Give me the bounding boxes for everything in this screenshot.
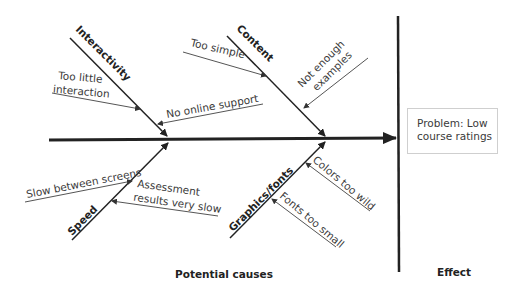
svg-text:Not enough examples: Not enough examples [295,35,358,98]
bone-speed: Speed Slow between screens Assessment re… [25,143,224,240]
bone-content: Content Too simple Not enough examples [183,22,368,136]
cause-too-simple: Too simple [189,36,247,60]
cause-fonts-too-small: Fonts too small [278,189,347,250]
potential-causes-label: Potential causes [175,268,273,280]
svg-text:Assessment results very: Assessment results very slow [133,177,225,215]
problem-line-1: Problem: Low [417,117,497,130]
effect-divider [398,16,399,272]
cause-too-little: Too little [57,69,103,85]
cause-interaction: interaction [53,83,111,100]
spine-arrow [49,138,396,140]
problem-box: Problem: Low course ratings [407,108,498,154]
effect-label: Effect [437,266,471,278]
problem-line-2: course ratings [417,130,497,143]
svg-text:Too little interaction: Too little interaction [53,69,112,100]
cause-colors-too-wild: Colors too wild [311,153,378,212]
cause-no-online-support: No online support [165,92,259,120]
bone-graphics-fonts: Graphics/fonts Colors too wild Fonts too… [226,142,378,250]
category-label-speed: Speed [65,203,100,238]
